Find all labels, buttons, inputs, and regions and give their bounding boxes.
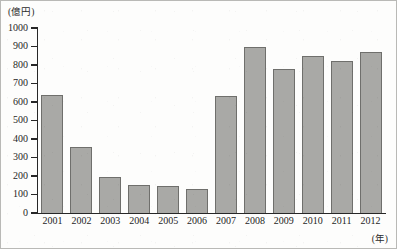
bar-chart-figure: (億円) 10009008007006005004003002001000 20… [0, 0, 397, 249]
bar-2010 [302, 56, 324, 213]
y-axis-tick: 0 [31, 212, 37, 213]
y-axis-tick: 600 [31, 101, 37, 102]
bar-slot [356, 28, 385, 213]
x-axis-label-2004: 2004 [125, 216, 154, 226]
bar-slot [154, 28, 183, 213]
y-axis-tick-label: 900 [13, 41, 28, 51]
x-axis-labels: 2001200220032004200520062007200820092010… [38, 216, 385, 226]
y-axis-tick-label: 800 [13, 60, 28, 70]
x-axis-label-2008: 2008 [240, 216, 269, 226]
y-axis-tick-label: 500 [13, 115, 28, 125]
y-axis-tick-label: 100 [13, 189, 28, 199]
y-axis-tick-label: 400 [13, 134, 28, 144]
y-axis-tick: 300 [31, 157, 37, 158]
y-axis-tick: 900 [31, 46, 37, 47]
x-axis-label-2003: 2003 [96, 216, 125, 226]
x-axis-label-2006: 2006 [183, 216, 212, 226]
y-axis-tick: 400 [31, 138, 37, 139]
bar-2009 [273, 69, 295, 213]
bar-2012 [360, 52, 382, 213]
bar-slot [38, 28, 67, 213]
x-axis-label-2005: 2005 [154, 216, 183, 226]
y-axis-tick: 800 [31, 64, 37, 65]
x-axis-label-2011: 2011 [327, 216, 356, 226]
bar-slot [327, 28, 356, 213]
y-axis-tick: 100 [31, 194, 37, 195]
bar-slot [96, 28, 125, 213]
bar-2011 [331, 61, 353, 213]
y-axis-tick-label: 200 [13, 171, 28, 181]
y-axis-tick-label: 600 [13, 97, 28, 107]
y-axis-tick-label: 300 [13, 152, 28, 162]
y-axis-tick: 200 [31, 175, 37, 176]
x-axis-label-2007: 2007 [212, 216, 241, 226]
bar-slot [125, 28, 154, 213]
bar-slot [269, 28, 298, 213]
bar-2006 [186, 189, 208, 213]
y-axis-tick: 700 [31, 83, 37, 84]
bar-slot [183, 28, 212, 213]
bar-2003 [99, 177, 121, 213]
x-axis-label-2001: 2001 [38, 216, 67, 226]
bar-2005 [157, 186, 179, 213]
x-axis-unit-label: (年) [372, 231, 388, 245]
y-axis-tick-label: 0 [23, 208, 28, 218]
bar-2004 [128, 185, 150, 213]
bar-series [38, 28, 385, 213]
x-axis-label-2010: 2010 [298, 216, 327, 226]
bar-2001 [41, 95, 63, 213]
y-axis-tick: 1000 [31, 27, 37, 28]
y-axis-unit-label: (億円) [8, 4, 34, 18]
bar-2002 [70, 147, 92, 213]
x-axis-label-2002: 2002 [67, 216, 96, 226]
y-axis-tick-label: 700 [13, 78, 28, 88]
y-axis-tick: 500 [31, 120, 37, 121]
bar-slot [298, 28, 327, 213]
bar-slot [67, 28, 96, 213]
bar-2008 [244, 47, 266, 214]
bar-slot [240, 28, 269, 213]
y-axis-tick-label: 1000 [8, 23, 28, 33]
bar-2007 [215, 96, 237, 213]
bar-slot [212, 28, 241, 213]
x-axis-label-2009: 2009 [269, 216, 298, 226]
x-axis-label-2012: 2012 [356, 216, 385, 226]
